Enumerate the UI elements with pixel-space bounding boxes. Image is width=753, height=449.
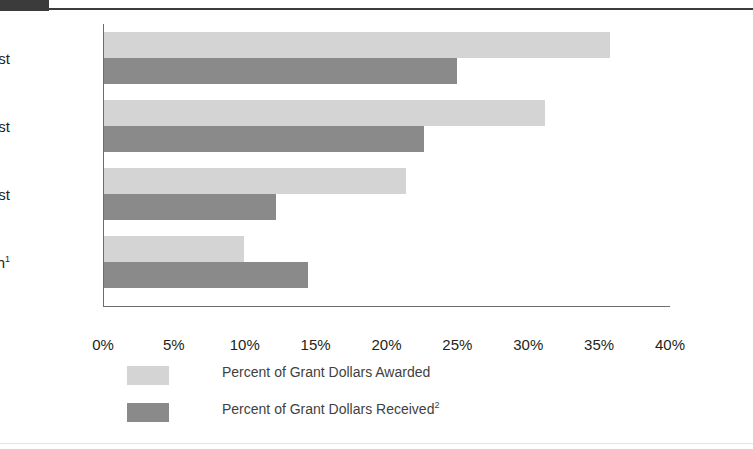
category-label-midwest: Midwest [0, 187, 10, 202]
header-tab-marker [0, 0, 49, 11]
legend-label-awarded: Percent of Grant Dollars Awarded [222, 364, 430, 380]
x-tick-label-30: 30% [498, 336, 558, 353]
bar-group-south [104, 236, 670, 288]
category-label-south: South1 [0, 255, 10, 270]
x-tick-label-0: 0% [73, 336, 133, 353]
bottom-divider-rule [0, 443, 753, 444]
header-divider-rule [49, 8, 753, 10]
bar-west-awarded [104, 100, 545, 126]
category-footnote-marker: 1 [5, 254, 10, 264]
category-label-northeast: Northeast [0, 51, 10, 66]
x-tick-label-15: 15% [286, 336, 346, 353]
x-axis-line [103, 306, 670, 307]
bar-midwest-received [104, 194, 276, 220]
legend-swatch-received-icon [127, 403, 169, 422]
x-tick-label-25: 25% [427, 336, 487, 353]
bar-group-midwest [104, 168, 670, 220]
bar-group-northeast [104, 32, 670, 84]
bar-northeast-received [104, 58, 457, 84]
bar-midwest-awarded [104, 168, 406, 194]
legend-footnote-marker-received: 2 [434, 400, 439, 410]
category-label-text: West [0, 118, 10, 135]
x-tick-label-10: 10% [215, 336, 275, 353]
legend-swatch-awarded-icon [127, 366, 169, 385]
x-tick-label-5: 5% [144, 336, 204, 353]
category-label-text: Northeast [0, 50, 10, 67]
bar-group-west [104, 100, 670, 152]
bar-south-awarded [104, 236, 244, 262]
bar-northeast-awarded [104, 32, 610, 58]
bar-south-received [104, 262, 308, 288]
bar-west-received [104, 126, 424, 152]
x-tick-label-35: 35% [569, 336, 629, 353]
x-tick-label-20: 20% [357, 336, 417, 353]
x-tick-label-40: 40% [640, 336, 700, 353]
chart-page: NortheastWestMidwestSouth1 0%5%10%15%20%… [0, 0, 753, 449]
chart-plot-area: NortheastWestMidwestSouth1 0%5%10%15%20%… [103, 24, 670, 307]
legend-label-received: Percent of Grant Dollars Received2 [222, 401, 439, 417]
category-label-west: West [0, 119, 10, 134]
category-label-text: Midwest [0, 186, 10, 203]
legend-label-received-text: Percent of Grant Dollars Received [222, 401, 434, 417]
